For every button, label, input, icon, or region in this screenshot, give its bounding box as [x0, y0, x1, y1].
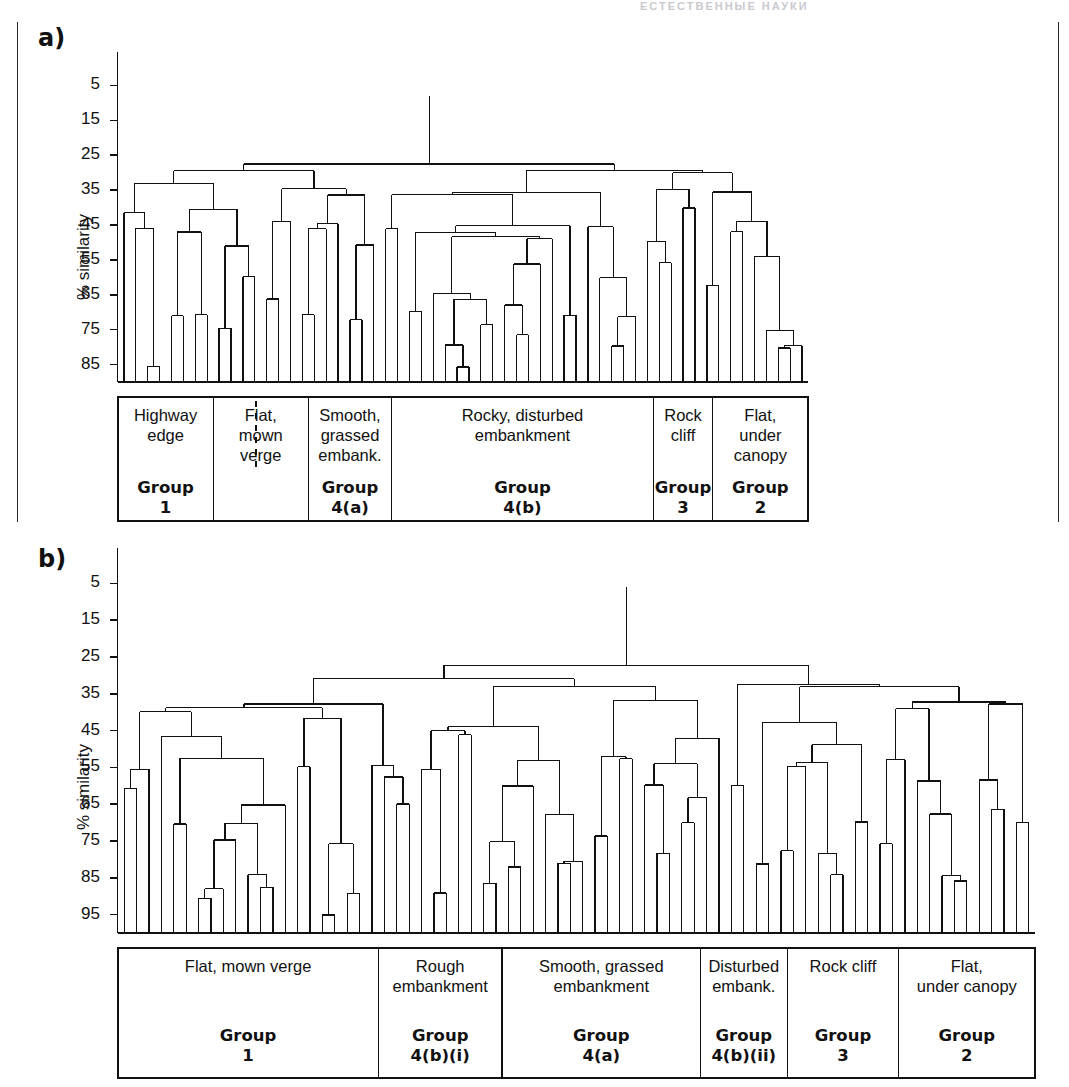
- habitat-category-label: Roughembankment: [378, 956, 502, 996]
- habitat-category-label: Flat, mown verge: [118, 956, 378, 976]
- habitat-category-label: Smooth, grassedembankment: [502, 956, 700, 996]
- habitat-category-label: Rock cliff: [787, 956, 899, 976]
- habitat-group-label: Group4(a): [502, 1026, 700, 1066]
- panel-b-plot: [0, 0, 1069, 1087]
- habitat-group-label: Group3: [787, 1026, 899, 1066]
- habitat-group-label: Group1: [118, 1026, 378, 1066]
- habitat-category-label: Flat,under canopy: [899, 956, 1035, 996]
- habitat-group-label: Group4(b)(i): [378, 1026, 502, 1066]
- habitat-category-label: Disturbedembank.: [700, 956, 787, 996]
- habitat-group-label: Group2: [899, 1026, 1035, 1066]
- habitat-group-label: Group4(b)(ii): [700, 1026, 787, 1066]
